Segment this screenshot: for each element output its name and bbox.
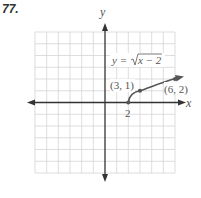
- point-3-1: [138, 89, 142, 93]
- x-axis-left-arrow-icon: [27, 100, 35, 106]
- svg-text:(6, 2): (6, 2): [164, 83, 188, 96]
- x-axis-label: x: [185, 96, 192, 110]
- point-6-2: [173, 77, 177, 81]
- y-axis-up-arrow-icon: [102, 23, 108, 31]
- equation-label: y = x − 2: [110, 53, 165, 67]
- svg-text:(3, 1): (3, 1): [110, 79, 134, 92]
- x-axis: [27, 100, 186, 106]
- point-2-0: [126, 100, 130, 104]
- x-intercept-tick-label: 2: [125, 107, 131, 119]
- x-axis-right-arrow-icon: [178, 100, 186, 106]
- svg-text:x − 2: x − 2: [137, 54, 162, 66]
- point-label-6-2: (6, 2): [164, 82, 191, 96]
- svg-text:y =: y =: [111, 54, 127, 66]
- point-label-3-1: (3, 1): [110, 79, 135, 92]
- graph: y x y = x − 2 (3, 1) (6, 2) 2: [0, 0, 201, 198]
- y-axis-label: y: [99, 5, 106, 19]
- y-axis-down-arrow-icon: [102, 174, 108, 182]
